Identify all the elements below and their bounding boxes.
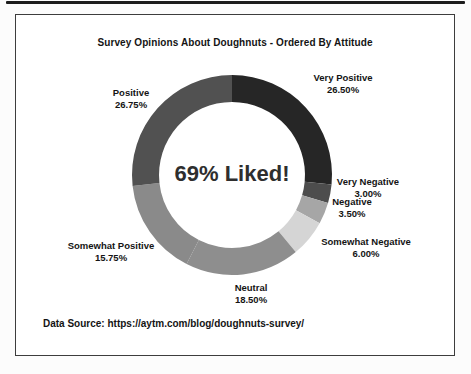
- label-very-positive-value: 26.50%: [313, 84, 372, 96]
- label-neutral: Neutral 18.50%: [235, 282, 268, 305]
- label-positive: Positive 26.75%: [113, 87, 149, 110]
- label-very-positive-name: Very Positive: [313, 72, 372, 84]
- label-negative-value: 3.50%: [332, 208, 372, 220]
- label-somewhat-negative-name: Somewhat Negative: [321, 236, 411, 248]
- label-somewhat-positive-name: Somewhat Positive: [68, 240, 155, 252]
- label-very-positive: Very Positive 26.50%: [313, 72, 372, 95]
- label-positive-name: Positive: [113, 87, 149, 99]
- label-somewhat-positive-value: 15.75%: [68, 252, 155, 264]
- label-very-negative-name: Very Negative: [337, 176, 399, 188]
- label-negative-name: Negative: [332, 196, 372, 208]
- label-somewhat-positive: Somewhat Positive 15.75%: [68, 240, 155, 263]
- label-negative: Negative 3.50%: [332, 196, 372, 219]
- label-positive-value: 26.75%: [113, 99, 149, 111]
- label-somewhat-negative-value: 6.00%: [321, 248, 411, 260]
- data-source-text: Data Source: https://aytm.com/blog/dough…: [43, 318, 304, 329]
- label-neutral-name: Neutral: [235, 282, 268, 294]
- segment-neutral: [187, 231, 296, 275]
- donut-center-text: 69% Liked!: [175, 161, 290, 187]
- chart-frame: Survey Opinions About Doughnuts - Ordere…: [15, 14, 455, 356]
- top-edge-line: [6, 1, 465, 4]
- label-somewhat-negative: Somewhat Negative 6.00%: [321, 236, 411, 259]
- label-neutral-value: 18.50%: [235, 294, 268, 306]
